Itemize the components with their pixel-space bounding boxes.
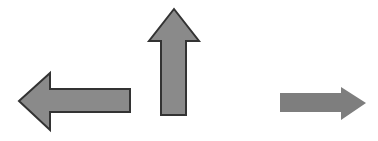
- canvas-background: [0, 0, 378, 141]
- arrow-canvas: Left arrowUp arrowRight arrow: [0, 0, 378, 141]
- arrows-illustration: Left arrowUp arrowRight arrow: [0, 0, 378, 141]
